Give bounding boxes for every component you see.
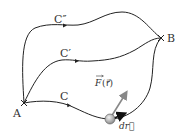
particle-ball xyxy=(105,114,115,124)
curve-c xyxy=(24,38,161,119)
label-curve-c: C xyxy=(60,90,68,103)
curve-c-prime xyxy=(24,38,161,103)
direction-arrow-icon xyxy=(67,103,71,107)
svg-text:(r⃗): (r⃗) xyxy=(102,78,113,88)
label-point-a: A xyxy=(12,107,22,120)
label-displacement: dr⃗ xyxy=(119,121,134,131)
label-curve-c-prime: C′ xyxy=(60,47,71,60)
label-force: F (r⃗) xyxy=(94,75,113,88)
label-point-b: B xyxy=(167,32,175,45)
direction-arrow-icon xyxy=(75,59,79,63)
label-curve-c-double-prime: C″ xyxy=(54,13,67,26)
path-independence-diagram: A B C″ C′ C F (r⃗) dr⃗ xyxy=(0,0,185,135)
curve-c-double-prime xyxy=(23,12,161,103)
svg-text:F: F xyxy=(94,78,102,88)
